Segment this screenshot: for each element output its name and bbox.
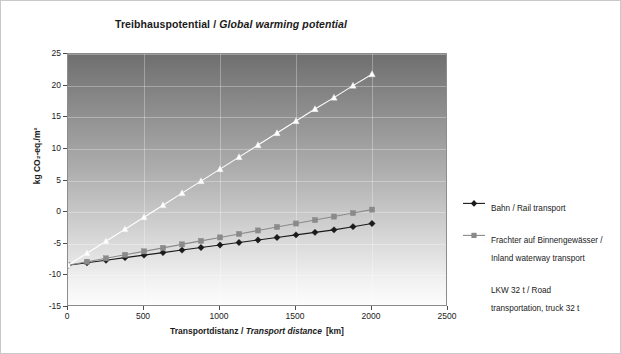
y-tick-mark bbox=[63, 53, 67, 54]
y-tick-mark bbox=[63, 116, 67, 117]
data-point-marker bbox=[236, 231, 241, 236]
y-tick-label: 5 bbox=[31, 176, 61, 185]
data-point-marker bbox=[160, 245, 165, 250]
data-point-marker bbox=[312, 229, 318, 235]
x-tick-label: 0 bbox=[47, 312, 87, 321]
legend-marker-icon bbox=[463, 281, 487, 290]
data-point-marker bbox=[198, 244, 204, 250]
series-1 bbox=[68, 220, 375, 268]
data-point-marker bbox=[293, 118, 299, 124]
data-point-marker bbox=[198, 238, 203, 243]
data-point-marker bbox=[160, 202, 166, 208]
data-point-marker bbox=[122, 226, 128, 232]
x-axis-unit: [km] bbox=[326, 326, 344, 336]
y-tick-label: -15 bbox=[31, 302, 61, 311]
data-point-marker bbox=[103, 256, 108, 261]
x-tick-label: 500 bbox=[123, 312, 163, 321]
x-tick-label: 2500 bbox=[427, 312, 467, 321]
x-axis-label: Transportdistanz / Transport distance[km… bbox=[67, 326, 447, 336]
data-point-marker bbox=[198, 178, 204, 184]
x-tick-mark bbox=[295, 306, 296, 310]
y-tick-mark bbox=[63, 148, 67, 149]
legend-item[interactable]: LKW 32 t / Road transportation, truck 32… bbox=[463, 279, 613, 315]
y-tick-label: 0 bbox=[31, 207, 61, 216]
data-point-marker bbox=[236, 239, 242, 245]
data-point-marker bbox=[217, 242, 223, 248]
data-point-marker bbox=[217, 235, 222, 240]
x-tick-label: 1500 bbox=[275, 312, 315, 321]
data-point-marker bbox=[179, 190, 185, 196]
legend-item[interactable]: Bahn / Rail transport bbox=[463, 197, 613, 215]
legend-label: LKW 32 t / Road transportation, truck 32… bbox=[491, 286, 579, 313]
data-point-marker bbox=[293, 221, 298, 226]
legend-item[interactable]: Frachter auf Binnengewässer / Inland wat… bbox=[463, 229, 613, 265]
data-point-marker bbox=[103, 238, 109, 244]
data-point-marker bbox=[274, 130, 280, 136]
chart-legend: Bahn / Rail transport Frachter auf Binne… bbox=[463, 197, 613, 329]
data-point-marker bbox=[179, 242, 184, 247]
x-tick-mark bbox=[143, 306, 144, 310]
data-point-marker bbox=[236, 154, 242, 160]
y-tick-label: -10 bbox=[31, 270, 61, 279]
chart-figure: Treibhauspotential / Global warming pote… bbox=[0, 0, 621, 354]
data-point-marker bbox=[274, 234, 280, 240]
legend-label: Bahn / Rail transport bbox=[491, 204, 566, 213]
legend-label: Frachter auf Binnengewässer / Inland wat… bbox=[491, 236, 603, 263]
y-tick-mark bbox=[63, 243, 67, 244]
data-point-marker bbox=[312, 106, 318, 112]
y-tick-label: -5 bbox=[31, 239, 61, 248]
x-tick-label: 1000 bbox=[199, 312, 239, 321]
y-tick-label: 20 bbox=[31, 81, 61, 90]
data-point-marker bbox=[331, 214, 336, 219]
legend-marker-icon bbox=[463, 231, 487, 240]
x-tick-mark bbox=[219, 306, 220, 310]
data-point-marker bbox=[350, 210, 355, 215]
data-point-marker bbox=[331, 94, 337, 100]
data-point-marker bbox=[293, 232, 299, 238]
y-tick-label: 25 bbox=[31, 49, 61, 58]
x-axis-label-en: Transport distance bbox=[246, 326, 322, 336]
legend-marker-icon bbox=[463, 199, 487, 208]
y-tick-label: 15 bbox=[31, 112, 61, 121]
y-tick-mark bbox=[63, 211, 67, 212]
data-point-marker bbox=[84, 259, 89, 264]
x-tick-mark bbox=[371, 306, 372, 310]
data-point-marker bbox=[179, 247, 185, 253]
x-tick-label: 2000 bbox=[351, 312, 391, 321]
data-point-marker bbox=[255, 142, 261, 148]
data-point-marker bbox=[369, 207, 374, 212]
data-point-marker bbox=[274, 224, 279, 229]
y-tick-mark bbox=[63, 180, 67, 181]
x-axis-label-separator: / bbox=[239, 326, 246, 336]
x-axis-label-de: Transportdistanz bbox=[170, 326, 238, 336]
y-tick-mark bbox=[63, 274, 67, 275]
plot-area bbox=[67, 53, 447, 306]
data-point-marker bbox=[350, 223, 356, 229]
data-point-marker bbox=[369, 220, 375, 226]
x-tick-mark bbox=[67, 306, 68, 310]
x-tick-mark bbox=[447, 306, 448, 310]
y-tick-label: 10 bbox=[31, 144, 61, 153]
data-point-marker bbox=[141, 214, 147, 220]
data-point-marker bbox=[217, 166, 223, 172]
data-point-marker bbox=[312, 217, 317, 222]
data-point-marker bbox=[255, 228, 260, 233]
data-point-marker bbox=[141, 249, 146, 254]
data-point-marker bbox=[255, 237, 261, 243]
data-point-marker bbox=[331, 227, 337, 233]
series-layer bbox=[68, 54, 447, 306]
data-point-marker bbox=[369, 71, 375, 77]
data-point-marker bbox=[84, 250, 90, 256]
data-point-marker bbox=[350, 82, 356, 88]
data-point-marker bbox=[122, 252, 127, 257]
y-tick-mark bbox=[63, 85, 67, 86]
